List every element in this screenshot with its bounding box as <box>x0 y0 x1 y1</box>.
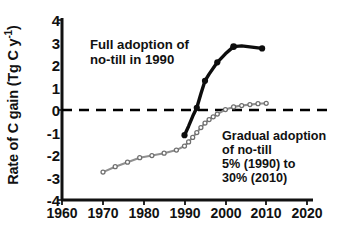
annotation-gradual-adoption-line3: 5% (1990) to <box>222 157 326 171</box>
annotation-gradual-adoption: Gradual adoption of no-till 5% (1990) to… <box>222 129 326 185</box>
series-full-adoption <box>181 43 265 138</box>
chart-figure: Rate of C gain (Tg C y-1) 4 3 2 1 0 -1 -… <box>0 0 364 239</box>
annotation-gradual-adoption-line1: Gradual adoption <box>222 129 326 143</box>
annotation-full-adoption-line1: Full adoption of <box>90 38 189 53</box>
annotation-full-adoption-line2: no-till in 1990 <box>90 53 189 68</box>
annotation-full-adoption: Full adoption of no-till in 1990 <box>90 38 189 68</box>
plot-area <box>0 0 364 239</box>
annotation-gradual-adoption-line2: of no-till <box>222 143 326 157</box>
annotation-gradual-adoption-line4: 30% (2010) <box>222 171 326 185</box>
